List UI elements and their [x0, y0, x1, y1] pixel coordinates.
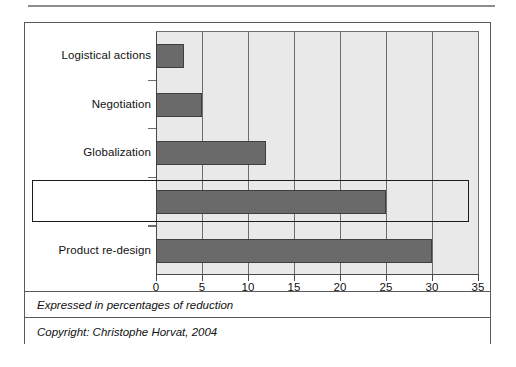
- chart-plot-region: Logistical actionsNegotiationGlobalizati…: [25, 23, 490, 291]
- category-label-holder: Negotiation: [25, 80, 151, 129]
- category-label: Negotiation: [92, 98, 151, 110]
- page-top-rule: [28, 5, 495, 7]
- highlight-label-backdrop: [32, 180, 156, 223]
- x-axis-line: [156, 274, 479, 275]
- gridline-35: [478, 32, 479, 275]
- bar-row: [156, 81, 478, 130]
- y-axis-tick: [148, 128, 156, 129]
- bar-row: [156, 178, 478, 227]
- bar: [156, 239, 432, 263]
- copyright-notice: Copyright: Christophe Horvat, 2004: [25, 326, 217, 338]
- bar: [156, 190, 386, 214]
- bar: [156, 141, 266, 165]
- category-label: Globalization: [83, 146, 151, 158]
- bar-row: [156, 226, 478, 275]
- bar-row: [156, 129, 478, 178]
- category-label-holder: Globalization: [25, 128, 151, 177]
- chart-caption: Expressed in percentages of reduction: [25, 299, 233, 311]
- caption-strip: Expressed in percentages of reduction: [25, 291, 490, 318]
- figure-card: Logistical actionsNegotiationGlobalizati…: [24, 22, 491, 344]
- y-axis-tick: [148, 225, 156, 226]
- y-axis-tick: [148, 80, 156, 81]
- category-label-holder: Logistical actions: [25, 31, 151, 80]
- copyright-strip: Copyright: Christophe Horvat, 2004: [25, 317, 490, 346]
- y-axis-tick: [148, 177, 156, 178]
- category-label-holder: Product re-design: [25, 225, 151, 274]
- bar-row: [156, 32, 478, 81]
- bar: [156, 93, 202, 117]
- category-label: Product re-design: [59, 244, 151, 256]
- bar: [156, 44, 184, 68]
- category-label: Logistical actions: [62, 49, 151, 61]
- plot-area: [156, 31, 479, 275]
